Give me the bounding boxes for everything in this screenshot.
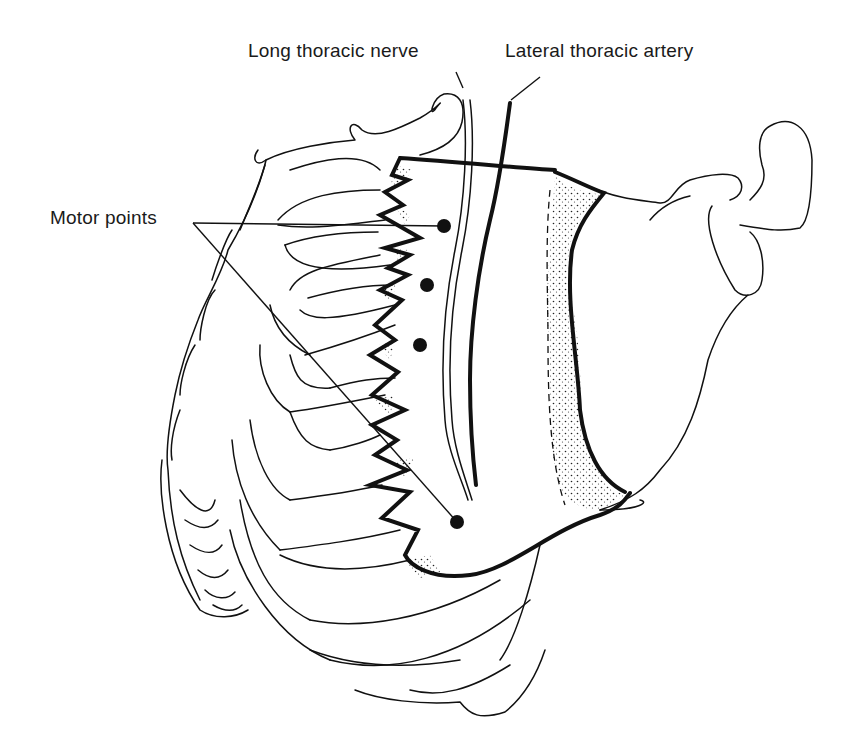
label-long-thoracic-nerve: Long thoracic nerve bbox=[248, 40, 419, 62]
lower-anterior-ribs bbox=[161, 460, 248, 617]
label-motor-points: Motor points bbox=[50, 207, 157, 229]
motor-point-2 bbox=[420, 278, 434, 292]
stippled-muscle-edges bbox=[375, 165, 625, 578]
anatomical-diagram bbox=[0, 0, 859, 755]
motor-point-4 bbox=[450, 515, 464, 529]
rib-cage bbox=[167, 158, 545, 715]
motor-point-1 bbox=[437, 219, 451, 233]
label-lateral-thoracic-artery: Lateral thoracic artery bbox=[505, 40, 693, 62]
leader-lines bbox=[193, 72, 540, 522]
motor-point-3 bbox=[413, 338, 427, 352]
scapula-outline bbox=[585, 122, 812, 510]
motor-points bbox=[413, 219, 464, 529]
lateral-thoracic-artery bbox=[470, 103, 510, 485]
serratus-anterior-border bbox=[370, 158, 630, 576]
